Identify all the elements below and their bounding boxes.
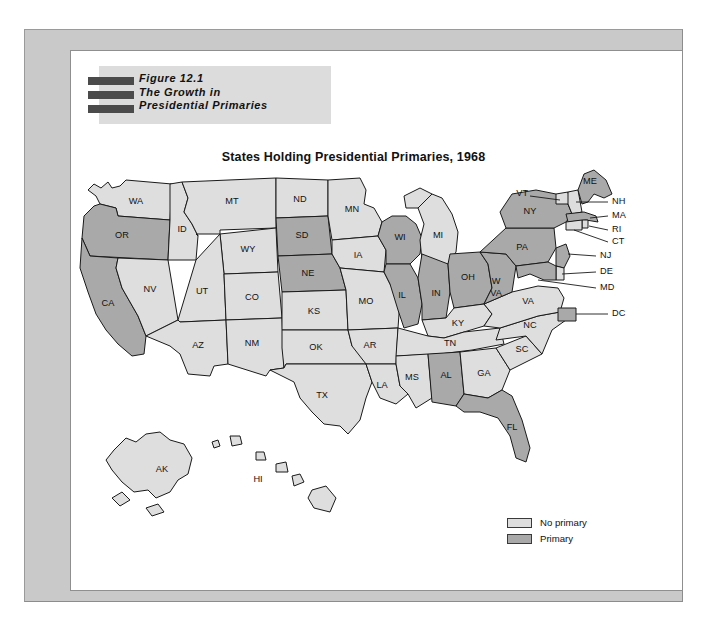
label-LA: LA: [376, 380, 388, 390]
label-MN: MN: [345, 204, 359, 214]
leader-CT: [574, 230, 608, 242]
label-NY: NY: [524, 206, 537, 216]
label-AK: AK: [156, 464, 169, 474]
figure-banner-bars: [88, 77, 134, 115]
label-MD: MD: [600, 282, 615, 292]
state-ME[interactable]: [578, 170, 612, 204]
legend-swatch-primary: [507, 534, 532, 544]
banner-bar-2: [88, 91, 134, 99]
label-NM: NM: [245, 338, 259, 348]
label-MS: MS: [405, 372, 419, 382]
label-CO: CO: [245, 292, 259, 302]
label-FL: FL: [507, 422, 518, 432]
state-MT[interactable]: [182, 178, 276, 236]
banner-bar-3: [88, 105, 134, 113]
label-AZ: AZ: [192, 340, 204, 350]
label-CA: CA: [102, 298, 116, 308]
state-AK[interactable]: [106, 432, 192, 516]
label-MT: MT: [225, 196, 239, 206]
figure-caption-line-1: Figure 12.1: [139, 72, 339, 86]
label-TX: TX: [316, 390, 328, 400]
label-IL: IL: [398, 290, 406, 300]
legend-label-no-primary: No primary: [540, 517, 587, 528]
label-KS: KS: [308, 306, 320, 316]
label-RI: RI: [612, 224, 621, 234]
label-NE: NE: [302, 268, 315, 278]
label-OK: OK: [309, 342, 323, 352]
label-NC: NC: [523, 320, 537, 330]
label-MI: MI: [433, 230, 443, 240]
label-SC: SC: [516, 344, 529, 354]
label-NJ: NJ: [600, 250, 611, 260]
label-OR: OR: [115, 230, 129, 240]
label-KY: KY: [452, 318, 464, 328]
state-HI[interactable]: [212, 436, 336, 512]
label-MA: MA: [612, 210, 627, 220]
label-CT: CT: [612, 236, 625, 246]
state-NJ[interactable]: [556, 244, 570, 268]
label-OH: OH: [461, 272, 475, 282]
label-WV-line2: VA: [490, 288, 502, 298]
map-title: States Holding Presidential Primaries, 1…: [0, 150, 707, 164]
state-IN[interactable]: [418, 254, 450, 320]
label-GA: GA: [477, 368, 491, 378]
legend-item-primary[interactable]: Primary: [507, 532, 587, 545]
figure-caption: Figure 12.1 The Growth in Presidential P…: [139, 72, 339, 113]
legend-label-primary: Primary: [540, 533, 573, 544]
label-UT: UT: [196, 286, 209, 296]
label-NV: NV: [144, 284, 158, 294]
label-AR: AR: [364, 340, 377, 350]
label-DE: DE: [600, 266, 613, 276]
label-HI: HI: [253, 474, 262, 484]
legend-item-no-primary[interactable]: No primary: [507, 516, 587, 529]
label-IN: IN: [431, 288, 440, 298]
state-RI[interactable]: [582, 220, 588, 228]
label-ND: ND: [293, 194, 307, 204]
label-ID: ID: [177, 224, 187, 234]
legend-swatch-no-primary: [507, 518, 532, 528]
label-TN: TN: [444, 338, 456, 348]
label-VT: VT: [516, 188, 528, 198]
leader-DE: [562, 272, 596, 274]
state-FL[interactable]: [456, 390, 530, 462]
label-DC: DC: [612, 308, 626, 318]
label-WI: WI: [394, 232, 405, 242]
label-WA: WA: [129, 196, 144, 206]
us-map: WA OR CA NV ID MT WY UT AZ CO NM ND SD N…: [60, 168, 660, 568]
label-ME: ME: [583, 176, 597, 186]
state-CT[interactable]: [566, 220, 582, 230]
figure-caption-line-3: Presidential Primaries: [139, 99, 339, 113]
figure-page: Figure 12.1 The Growth in Presidential P…: [0, 0, 707, 643]
map-legend: No primary Primary: [507, 516, 587, 548]
label-MO: MO: [359, 296, 374, 306]
figure-caption-line-2: The Growth in: [139, 86, 339, 100]
label-PA: PA: [516, 242, 528, 252]
label-WV-line1: W: [492, 276, 501, 286]
label-AL: AL: [440, 370, 451, 380]
dc-marker-swatch[interactable]: [558, 308, 576, 321]
banner-bar-1: [88, 77, 134, 85]
leader-RI: [589, 226, 608, 230]
label-IA: IA: [354, 250, 364, 260]
label-WY: WY: [241, 244, 256, 254]
state-DE[interactable]: [556, 266, 564, 280]
label-SD: SD: [296, 230, 309, 240]
leader-NJ: [568, 254, 596, 256]
label-VA: VA: [522, 296, 534, 306]
label-NH: NH: [612, 196, 625, 206]
